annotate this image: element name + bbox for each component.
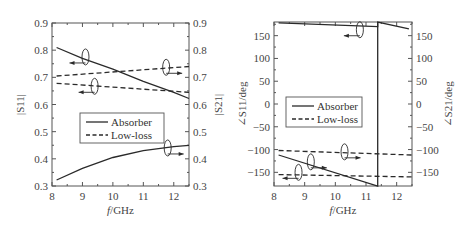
x-tick-label: 8 bbox=[271, 190, 277, 202]
annotation-arrow-icon bbox=[283, 176, 288, 180]
x-tick-label: 10 bbox=[107, 190, 119, 202]
annotation-arrow-icon bbox=[179, 152, 184, 156]
x-tick-label: 11 bbox=[361, 190, 372, 202]
y-tick-label-right: −100 bbox=[416, 144, 439, 156]
legend: AbsorberLow-loss bbox=[80, 113, 164, 143]
legend-label-lowloss: Low-loss bbox=[317, 113, 358, 125]
y-axis-title-right: |S21| bbox=[212, 94, 224, 116]
y-tick-label-right: 0.3 bbox=[193, 180, 207, 192]
y-tick-label-left: −50 bbox=[253, 121, 271, 133]
x-tick-label: 8 bbox=[49, 190, 55, 202]
y-tick-label-right: 0.8 bbox=[193, 44, 207, 56]
y-tick-label-left: 0.6 bbox=[34, 99, 48, 111]
y-tick-label-left: 0.5 bbox=[34, 126, 48, 138]
y-tick-label-left: 0.7 bbox=[34, 71, 48, 83]
annotation-arrow-icon bbox=[356, 156, 361, 160]
y-tick-label-left: −150 bbox=[247, 166, 270, 178]
y-tick-label-right: 150 bbox=[416, 30, 433, 42]
x-axis-title: f/GHz bbox=[107, 204, 134, 216]
y-tick-label-right: 0.7 bbox=[193, 71, 207, 83]
y-tick-label-right: −150 bbox=[416, 166, 439, 178]
legend-label-absorber: Absorber bbox=[317, 100, 358, 112]
annotation-arrow-icon bbox=[79, 90, 84, 94]
y-tick-label-left: 0.9 bbox=[34, 17, 48, 29]
y-tick-label-left: 0.4 bbox=[34, 153, 48, 165]
y-tick-label-right: 0.5 bbox=[193, 126, 207, 138]
legend: AbsorberLow-loss bbox=[286, 97, 362, 127]
series-line bbox=[279, 151, 412, 156]
y-tick-label-left: 100 bbox=[254, 52, 271, 64]
y-axis-title-right: ∠S21/deg bbox=[442, 81, 454, 127]
x-tick-label: 9 bbox=[80, 190, 86, 202]
series-line bbox=[57, 83, 189, 92]
y-axis-title-left: ∠S11/deg bbox=[236, 81, 248, 126]
x-tick-label: 12 bbox=[391, 190, 402, 202]
legend-label-lowloss: Low-loss bbox=[111, 129, 152, 141]
y-tick-label-left: −100 bbox=[247, 144, 270, 156]
magnitude-chart: 891011120.30.30.40.40.50.50.60.60.70.70.… bbox=[14, 17, 224, 216]
y-tick-label-right: 0.4 bbox=[193, 153, 207, 165]
y-tick-label-right: 0 bbox=[416, 98, 422, 110]
annotation-arrow-icon bbox=[177, 71, 182, 75]
y-tick-label-right: 100 bbox=[416, 52, 433, 64]
x-tick-label: 12 bbox=[168, 190, 179, 202]
y-tick-label-right: 0.6 bbox=[193, 99, 207, 111]
legend-label-absorber: Absorber bbox=[111, 116, 152, 128]
y-tick-label-right: −50 bbox=[416, 121, 434, 133]
series-line bbox=[279, 175, 412, 177]
figure: 891011120.30.30.40.40.50.50.60.60.70.70.… bbox=[0, 0, 464, 232]
annotation-arrow-icon bbox=[69, 61, 74, 65]
y-tick-label-left: 150 bbox=[254, 30, 271, 42]
series-line bbox=[279, 22, 409, 29]
y-tick-label-left: 0 bbox=[265, 98, 271, 110]
annotation-arrow-icon bbox=[344, 34, 349, 38]
plot-frame bbox=[52, 23, 189, 186]
y-tick-label-left: 0.8 bbox=[34, 44, 48, 56]
x-tick-label: 10 bbox=[330, 190, 342, 202]
series-line bbox=[57, 145, 189, 180]
y-tick-label-right: 0.9 bbox=[193, 17, 207, 29]
x-tick-label: 11 bbox=[138, 190, 149, 202]
x-axis-title: f/GHz bbox=[330, 204, 357, 216]
y-tick-label-right: 50 bbox=[416, 75, 428, 87]
y-tick-label-left: 50 bbox=[259, 75, 271, 87]
phase-chart: 89101112−150−150−100−100−50−500050501001… bbox=[236, 22, 454, 216]
y-axis-title-left: |S11| bbox=[14, 94, 26, 115]
y-tick-label-left: 0.3 bbox=[34, 180, 48, 192]
x-tick-label: 9 bbox=[302, 190, 308, 202]
